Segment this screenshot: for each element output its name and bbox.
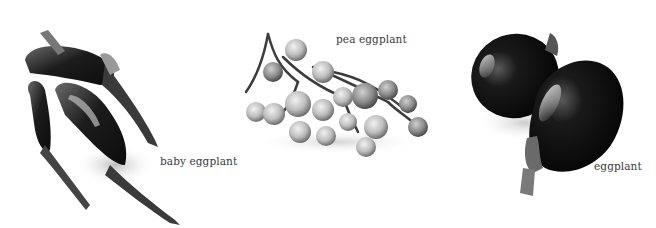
eggplant-photo <box>465 28 630 198</box>
eggplant-label: eggplant <box>594 160 642 172</box>
baby-eggplant-label: baby eggplant <box>160 155 237 167</box>
pea-eggplant-label: pea eggplant <box>336 33 407 45</box>
baby-eggplant-photo <box>10 15 190 225</box>
pea-eggplant-photo <box>238 32 433 157</box>
